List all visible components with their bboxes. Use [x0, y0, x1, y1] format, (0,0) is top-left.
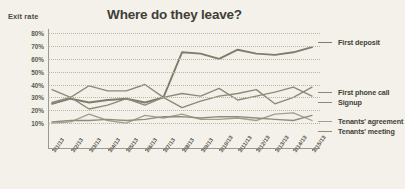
x-axis-label: 3/6/13 [144, 137, 158, 154]
x-axis-label: 3/2/13 [70, 137, 84, 154]
x-axis-labels: 3/1/133/2/133/3/133/4/133/5/133/6/133/7/… [48, 150, 338, 188]
y-axis-tick-label: 30% [31, 94, 44, 101]
x-axis-label: 3/7/13 [162, 137, 176, 154]
gridline [48, 123, 320, 124]
series-line [52, 113, 312, 123]
y-axis-tick-label: 80% [31, 30, 44, 37]
chart-legend: First depositFirst phone callSignupTenan… [316, 0, 405, 189]
legend-label: Tenants' meeting [338, 127, 395, 136]
gridline [48, 46, 320, 47]
x-axis-label: 3/13/13 [274, 134, 290, 153]
legend-label: First phone call [338, 88, 390, 97]
x-axis-label: 3/1/13 [51, 137, 65, 154]
legend-line-swatch [318, 42, 332, 43]
legend-label: Tenants' agreement [338, 117, 403, 126]
x-axis-label: 3/14/13 [292, 134, 308, 153]
series-line [52, 85, 312, 108]
legend-label: Signup [338, 98, 362, 107]
legend-line-swatch [318, 131, 332, 132]
gridline [48, 85, 320, 86]
series-line [52, 47, 312, 104]
y-axis-tick-label: 70% [31, 42, 44, 49]
y-axis-tick-label: 40% [31, 81, 44, 88]
x-axis-label: 3/4/13 [107, 137, 121, 154]
gridline [48, 33, 320, 34]
legend-line-swatch [318, 102, 332, 103]
y-axis-title: Exit rate [8, 12, 39, 21]
x-axis-label: 3/3/13 [88, 137, 102, 154]
x-axis-label: 3/10/13 [218, 134, 234, 153]
x-axis-label: 3/8/13 [181, 137, 195, 154]
y-axis-tick-label: 50% [31, 68, 44, 75]
plot-area: 10%20%30%40%50%60%70%80% [48, 33, 316, 136]
series-line [52, 115, 312, 121]
legend-label: First deposit [338, 38, 380, 47]
legend-line-swatch [318, 92, 332, 93]
legend-line-swatch [318, 121, 332, 122]
y-axis-tick-label: 60% [31, 55, 44, 62]
y-axis-tick-label: 20% [31, 107, 44, 114]
gridline [48, 110, 320, 111]
gridline [48, 59, 320, 60]
gridline [48, 97, 320, 98]
x-axis-label: 3/11/13 [237, 134, 253, 153]
y-axis-tick-label: 10% [31, 120, 44, 127]
gridline [48, 72, 320, 73]
chart-container: Exit rate Where do they leave? 10%20%30%… [0, 0, 405, 189]
x-axis-label: 3/5/13 [125, 137, 139, 154]
x-axis-label: 3/12/13 [255, 134, 271, 153]
chart-title: Where do they leave? [62, 7, 287, 22]
x-axis-label: 3/9/13 [200, 137, 214, 154]
